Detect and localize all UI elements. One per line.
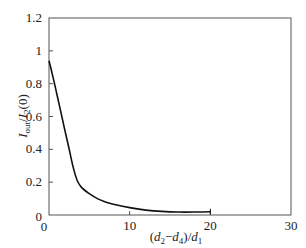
x-axis-label: (d2−d4)/d1 bbox=[150, 229, 203, 246]
plot-area bbox=[49, 61, 210, 215]
x-tick-label: 20 bbox=[204, 218, 217, 233]
x-tick-label: 10 bbox=[123, 218, 136, 233]
y-tick-label: 1.2 bbox=[26, 10, 42, 25]
axes-frame bbox=[49, 18, 291, 215]
plot-frame bbox=[49, 18, 291, 215]
data-line bbox=[49, 61, 210, 212]
y-tick-label: 0.2 bbox=[26, 174, 42, 189]
y-tick-label: 0 bbox=[36, 209, 43, 224]
ticks: 010203000.20.40.60.811.2 bbox=[26, 10, 298, 234]
x-tick-label: 30 bbox=[285, 218, 298, 233]
y-tick-label: 0.8 bbox=[26, 76, 42, 91]
y-tick-label: 0.4 bbox=[26, 141, 43, 156]
chart: 010203000.20.40.60.811.2 (d2−d4)/d1 Iout… bbox=[0, 0, 306, 248]
y-tick-label: 1 bbox=[36, 43, 43, 58]
y-axis-label: Iout/I2(0) bbox=[15, 94, 32, 139]
